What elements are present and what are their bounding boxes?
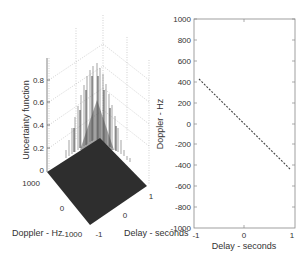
y-tick-label: 0: [187, 120, 192, 129]
z-tick-label: 0.6: [33, 98, 45, 107]
contour-plot-2d: 1000 800 600 400 200 0 -200 -400 -600 -8…: [155, 15, 295, 251]
y-axis-label: Doppler - Hz: [155, 98, 165, 149]
y-tick-label: -400: [175, 161, 192, 170]
y-tick-label: 800: [178, 36, 192, 45]
delay-tick-label: 1: [149, 192, 154, 201]
doppler-tick-label: -1000: [62, 230, 83, 239]
doppler-tick-label: 1000: [22, 179, 40, 188]
y-tick-label: 1000: [173, 15, 191, 24]
y-tick-label: -600: [175, 182, 192, 191]
delay-tick-label: 0: [123, 211, 128, 220]
z-axis-label: Uncertainty function: [21, 80, 31, 160]
doppler-tick-label: 0: [60, 204, 65, 213]
x-tick-label: -1: [192, 231, 200, 240]
doppler-axis-label: Doppler - Hz: [12, 228, 63, 238]
delay-tick-label: -1: [95, 230, 103, 239]
y-tick-label: 400: [178, 78, 192, 87]
y-tick-label: -1000: [171, 224, 192, 233]
y-tick-label: -200: [175, 140, 192, 149]
z-tick-label: 0: [40, 166, 45, 175]
y-tick-label: -800: [175, 203, 192, 212]
x-axis-label: Delay - seconds: [212, 241, 277, 251]
z-tick-label: 0.2: [33, 144, 45, 153]
z-tick-label: 0.4: [33, 121, 45, 130]
y-tick-label: 200: [178, 99, 192, 108]
x-tick-label: 0: [242, 231, 247, 240]
x-tick-label: 1: [290, 231, 295, 240]
figure: 0.8 0.6 0.4 0.2 0 1000 0 -1000 -1 0 1 Un…: [0, 0, 307, 261]
z-tick-label: 0.8: [33, 76, 45, 85]
y-tick-label: 600: [178, 57, 192, 66]
